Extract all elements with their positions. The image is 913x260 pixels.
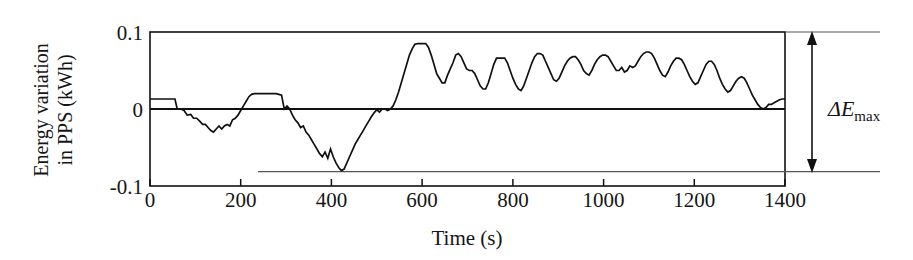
x-tick-label-200: 200 (225, 188, 257, 212)
x-tick-label-1200: 1200 (673, 188, 715, 212)
delta-E-max-main: ΔE (827, 96, 855, 121)
x-axis-title: Time (s) (432, 226, 503, 250)
x-tick-label-0: 0 (145, 188, 156, 212)
y-axis-title: Energy variation in PPS (kWh) (30, 43, 77, 176)
arrow-head-up (807, 31, 817, 45)
x-tick-label-600: 600 (406, 188, 438, 212)
x-axis-ticks (150, 179, 785, 186)
x-tick-label-1400: 1400 (764, 188, 806, 212)
delta-E-max-annotation: ΔEmax (807, 31, 881, 173)
y-axis-title-line2: in PPS (kWh) (54, 54, 77, 165)
arrow-head-down (807, 159, 817, 173)
x-tick-label-1000: 1000 (583, 188, 625, 212)
y-axis-title-line1: Energy variation (30, 43, 53, 176)
figure-container: 0 200 400 600 800 1000 1200 1400 0.1 0 -… (0, 0, 913, 260)
energy-variation-chart: 0 200 400 600 800 1000 1200 1400 0.1 0 -… (0, 0, 913, 260)
y-tick-label-bottom: -0.1 (110, 175, 143, 199)
x-tick-label-800: 800 (497, 188, 529, 212)
x-tick-label-400: 400 (316, 188, 348, 212)
y-tick-label-zero: 0 (133, 98, 144, 122)
delta-E-max-subscript: max (854, 108, 880, 124)
delta-E-max-label: ΔEmax (827, 96, 881, 124)
y-tick-label-top: 0.1 (117, 21, 143, 45)
data-series-energy-variation (150, 44, 785, 171)
